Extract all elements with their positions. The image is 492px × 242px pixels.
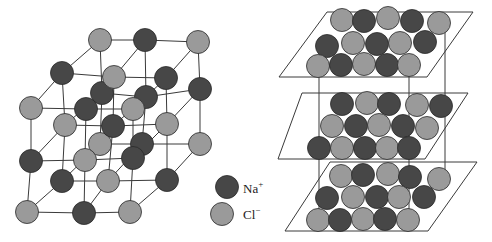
cl-ion-atom (331, 9, 354, 32)
na-ion-atom (366, 186, 389, 209)
cl-ion-atom (103, 66, 126, 89)
na-ion-atom (102, 115, 125, 138)
na-ion-atom (413, 186, 436, 209)
plane-bottom (285, 162, 477, 232)
na-ion-atom (329, 209, 352, 232)
na-ion-atom (155, 67, 178, 90)
cl-ion-atom (377, 163, 400, 186)
cl-ion-atom (428, 168, 451, 191)
cl-ion-atom (330, 165, 353, 188)
legend: Na+ Cl− (211, 176, 264, 226)
cl-ion-atom (16, 201, 39, 224)
plane-middle (278, 92, 468, 160)
cl-ion-atom (352, 208, 375, 231)
na-ion-atom (345, 115, 368, 138)
cl-ion-atom (353, 53, 376, 76)
cl-ion-atom (156, 113, 179, 136)
na-ion-atom (156, 169, 179, 192)
cl-ion-atom (376, 137, 399, 160)
cl-ion-atom (406, 94, 429, 117)
na-ion-atom (430, 95, 453, 118)
na-ion-atom (20, 150, 43, 173)
cl-ion-atom (428, 12, 451, 35)
cl-ion-atom (398, 54, 421, 77)
na-ion-atom (354, 137, 377, 160)
na-ion-atom (331, 93, 354, 116)
na-ion-atom (134, 29, 157, 52)
na-ion-atom (308, 137, 331, 160)
na-ion-atom (73, 202, 96, 225)
na-ion-atom (352, 164, 375, 187)
cl-ion-atom (307, 55, 330, 78)
cube-lattice-atoms (16, 29, 212, 225)
na-legend-label: Na+ (243, 179, 263, 196)
cl-ion-atom (189, 133, 212, 156)
na-ion-atom (414, 31, 437, 54)
nacl-crystal-figure: Na+ Cl− (0, 0, 492, 242)
cl-ion-atom (321, 115, 344, 138)
cl-ion-atom (307, 209, 330, 232)
cl-ion-atom (388, 186, 411, 209)
na-ion-atom (401, 10, 424, 33)
na-ion-atom (122, 147, 145, 170)
na-ion-atom (366, 33, 389, 56)
na-ion-atom (51, 170, 74, 193)
na-ion-atom (316, 35, 339, 58)
cl-ion-atom (416, 117, 439, 140)
na-ion-atom (392, 115, 415, 138)
cl-ion-atom (342, 32, 365, 55)
na-ion-atom (399, 166, 422, 189)
cl-ion-atom (20, 97, 43, 120)
cl-ion-atom (356, 92, 379, 115)
na-ion-atom (330, 54, 353, 77)
cl-ion-atom (389, 32, 412, 55)
layer-planes (278, 7, 477, 232)
cl-ion-atom (89, 29, 112, 52)
na-ion-atom (75, 98, 98, 121)
cl-ion-legend-icon (211, 203, 234, 226)
na-ion-atom (353, 10, 376, 33)
cl-ion-atom (122, 98, 145, 121)
na-ion-atom (316, 187, 339, 210)
cl-ion-atom (377, 7, 400, 30)
na-ion-atom (376, 54, 399, 77)
cl-ion-atom (97, 170, 120, 193)
plane-top (279, 7, 473, 78)
cl-ion-atom (54, 114, 77, 137)
na-ion-atom (398, 137, 421, 160)
cl-ion-atom (331, 137, 354, 160)
cl-ion-atom (368, 114, 391, 137)
cl-legend-label: Cl− (243, 205, 260, 222)
cl-ion-atom (74, 149, 97, 172)
cl-ion-atom (397, 209, 420, 232)
cl-ion-atom (187, 31, 210, 54)
na-ion-atom (374, 208, 397, 231)
na-ion-atom (378, 93, 401, 116)
cl-ion-atom (119, 201, 142, 224)
cl-ion-atom (342, 186, 365, 209)
na-ion-atom (51, 62, 74, 85)
na-ion-legend-icon (216, 176, 239, 199)
na-ion-atom (189, 78, 212, 101)
